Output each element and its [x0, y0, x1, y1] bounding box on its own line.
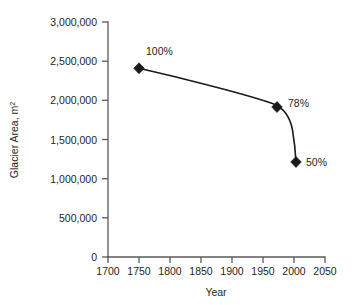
y-tick-label-1000000: 1,000,000	[50, 173, 97, 185]
x-tick-label-2000: 2000	[282, 265, 306, 277]
x-axis-tick-labels: 1700 1750 1800 1850 1900 1950 2000 2050	[96, 265, 337, 277]
data-point-2008	[291, 157, 302, 168]
y-axis-ticks	[102, 22, 108, 257]
data-point-1750	[134, 63, 145, 74]
series-line-glacier-area	[139, 68, 296, 162]
y-tick-label-3000000: 3,000,000	[50, 16, 97, 28]
x-tick-label-2050: 2050	[313, 265, 337, 277]
y-axis-title-text: Glacier Area, m	[8, 106, 20, 179]
y-tick-label-0: 0	[91, 251, 97, 263]
x-axis-title: Year	[205, 286, 227, 298]
point-label-50-percent: 50%	[306, 156, 327, 168]
x-tick-label-1750: 1750	[127, 265, 151, 277]
x-tick-label-1700: 1700	[96, 265, 120, 277]
y-axis-tick-labels: 3,000,000 2,500,000 2,000,000 1,500,000 …	[50, 16, 97, 263]
chart-canvas: 3,000,000 2,500,000 2,000,000 1,500,000 …	[0, 0, 354, 305]
glacier-area-chart: 3,000,000 2,500,000 2,000,000 1,500,000 …	[0, 0, 354, 305]
y-tick-label-500000: 500,000	[59, 212, 97, 224]
y-tick-label-2500000: 2,500,000	[50, 55, 97, 67]
series-point-labels: 100% 78% 50%	[146, 45, 327, 168]
point-label-78-percent: 78%	[288, 97, 309, 109]
y-axis-title: Glacier Area, m2	[8, 102, 20, 178]
x-tick-label-1800: 1800	[158, 265, 182, 277]
x-axis-ticks	[108, 257, 325, 263]
x-tick-label-1950: 1950	[251, 265, 275, 277]
x-tick-label-1850: 1850	[189, 265, 213, 277]
y-tick-label-2000000: 2,000,000	[50, 94, 97, 106]
x-tick-label-1900: 1900	[220, 265, 244, 277]
y-tick-label-1500000: 1,500,000	[50, 134, 97, 146]
series-markers	[134, 63, 302, 168]
y-axis-title-superscript: 2	[9, 102, 16, 106]
point-label-100-percent: 100%	[146, 45, 173, 57]
